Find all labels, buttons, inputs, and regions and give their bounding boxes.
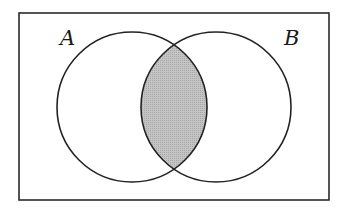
set-b-label: B xyxy=(283,26,299,50)
set-a-label: A xyxy=(58,26,75,50)
venn-diagram: A B xyxy=(0,0,344,209)
